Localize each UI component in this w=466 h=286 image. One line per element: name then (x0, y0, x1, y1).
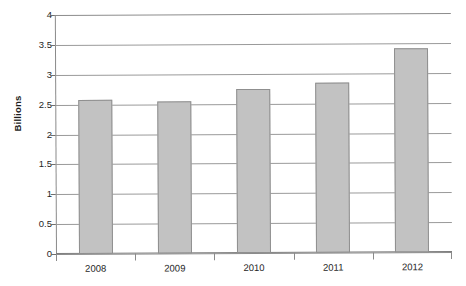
y-tick-label: 1 (26, 189, 52, 199)
x-tick-label-2010: 2010 (214, 262, 293, 273)
category-separator (373, 252, 374, 259)
y-tick-mark (50, 45, 55, 46)
bar-2011 (315, 82, 350, 252)
y-tick-label: 2.5 (26, 100, 52, 110)
bar-2010 (236, 89, 271, 253)
y-tick-label: 3 (26, 70, 52, 80)
y-tick-mark (51, 194, 56, 195)
plot-area (56, 15, 452, 254)
x-tick-label-2012: 2012 (373, 261, 452, 272)
y-tick-mark (50, 75, 55, 76)
x-tick-label-2009: 2009 (135, 262, 214, 273)
category-separator (294, 253, 295, 260)
gridline (55, 13, 451, 16)
y-tick-mark (51, 224, 56, 225)
y-tick-mark (50, 15, 55, 16)
category-separator (451, 252, 452, 259)
bar-2012 (394, 48, 429, 253)
y-tick-mark (50, 135, 55, 136)
bar-2009 (157, 101, 192, 254)
bar-2008 (78, 100, 113, 254)
x-tick-label-2008: 2008 (56, 263, 135, 274)
category-separator (214, 253, 215, 260)
bar-chart: Billions 43.532.521.510.50 2008200920102… (0, 0, 466, 286)
y-tick-label: 4 (26, 10, 52, 20)
y-tick-label: 0.5 (26, 219, 52, 229)
gridlines (55, 13, 451, 15)
gridline (55, 43, 451, 46)
gridline (55, 73, 451, 76)
y-tick-label: 1.5 (26, 159, 52, 169)
bottom-caption-fragment (14, 277, 454, 286)
y-tick-label: 3.5 (26, 40, 52, 50)
x-tick-label-2011: 2011 (294, 261, 373, 272)
category-separator (56, 254, 57, 261)
y-tick-mark (50, 105, 55, 106)
y-axis-tick-labels: 43.532.521.510.50 (14, 0, 52, 286)
y-tick-label: 0 (26, 249, 52, 259)
category-axis: 20082009201020112012 (56, 254, 452, 270)
y-tick-mark (51, 164, 56, 165)
category-separator (135, 254, 136, 261)
y-tick-label: 2 (26, 130, 52, 140)
